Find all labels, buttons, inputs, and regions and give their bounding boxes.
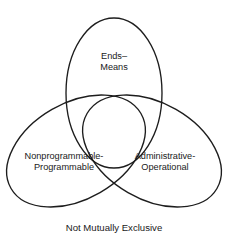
- venn-diagram-figure: Ends– Means Nonprogrammable- Programmabl…: [0, 0, 228, 243]
- diagram-caption: Not Mutually Exclusive: [66, 222, 163, 233]
- venn-diagram-shapes: [0, 0, 228, 243]
- ellipse-ends-means: [66, 18, 162, 168]
